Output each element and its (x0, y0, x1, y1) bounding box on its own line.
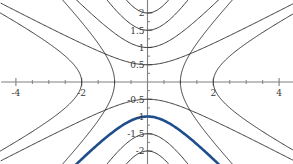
y-axis-tick-label: -2 (136, 146, 145, 156)
x-axis-tick-label: 2 (210, 88, 216, 98)
plot-canvas: -4-224-2-1.5-1-0.50.511.52 (0, 0, 293, 164)
y-axis-tick-label: 1 (139, 43, 145, 53)
y-axis-tick-label: 0.5 (130, 60, 145, 70)
x-axis-tick-label: 4 (276, 88, 282, 98)
y-axis-tick-label: -1.5 (127, 129, 145, 139)
x-axis-tick-label: -4 (12, 88, 21, 98)
y-axis-tick-label: 2 (139, 8, 145, 18)
y-axis-tick-label: -0.5 (127, 95, 145, 105)
x-axis-tick-label: -2 (77, 88, 86, 98)
y-axis-tick-label: -1 (136, 112, 145, 122)
y-axis-tick-label: 1.5 (130, 26, 145, 36)
hyperbola-contour-plot: -4-224-2-1.5-1-0.50.511.52 (0, 0, 293, 164)
